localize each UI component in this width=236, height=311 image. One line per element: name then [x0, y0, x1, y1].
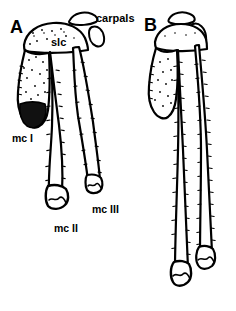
panel-letter-a: A	[10, 18, 23, 36]
label-mc-two: mc II	[54, 223, 78, 234]
label-slc: slc	[51, 37, 66, 48]
metacarpal-one-condyle-a	[20, 102, 46, 128]
carpal-distal-b	[168, 12, 194, 24]
figure-root: A B carpals slc mc I mc II mc III	[0, 0, 236, 311]
metacarpal-two-distal-a	[46, 185, 68, 209]
metacarpal-three-distal-b	[196, 246, 215, 269]
label-mc-three: mc III	[92, 204, 119, 215]
metacarpal-two-distal-b	[171, 261, 191, 286]
metacarpal-one-b	[149, 48, 178, 118]
label-mc-one: mc I	[12, 133, 33, 144]
carpal-lateral-a	[89, 27, 104, 47]
metacarpal-three-distal-a	[86, 175, 103, 194]
label-carpals: carpals	[96, 13, 135, 24]
panel-letter-b: B	[144, 16, 157, 34]
anatomical-drawing-svg	[0, 0, 236, 311]
